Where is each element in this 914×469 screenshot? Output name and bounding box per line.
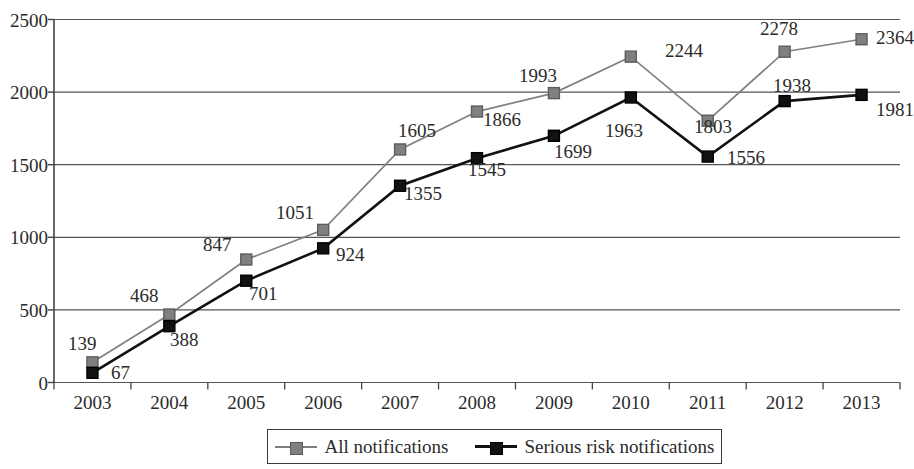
data-label-serious-risk-notifications: 1556 [727,148,765,167]
data-label-all-notifications: 139 [68,334,97,353]
data-label-serious-risk-notifications: 388 [170,330,199,349]
data-label-all-notifications: 2244 [665,41,703,60]
data-label-all-notifications: 1051 [276,203,314,222]
data-label-all-notifications: 1803 [694,117,732,136]
data-point-labels: 1394688471051160518661993224418032278236… [0,0,914,420]
data-label-serious-risk-notifications: 1963 [605,121,643,140]
data-label-serious-risk-notifications: 924 [336,245,365,264]
gray-square-marker-icon [275,440,317,454]
data-label-serious-risk-notifications: 1981 [876,100,914,119]
data-label-serious-risk-notifications: 701 [249,284,278,303]
legend-entry-serious-risk-notifications: Serious risk notifications [475,437,715,457]
data-label-serious-risk-notifications: 1699 [554,142,592,161]
data-label-serious-risk-notifications: 1355 [404,184,442,203]
legend-label-serious-risk-notifications: Serious risk notifications [525,437,715,457]
data-label-all-notifications: 468 [130,286,159,305]
data-label-all-notifications: 847 [203,235,232,254]
data-label-all-notifications: 1605 [398,121,436,140]
line-chart: 25002000150010005000 2003200420052006200… [0,0,914,469]
data-label-all-notifications: 2364 [876,28,914,47]
data-label-all-notifications: 1993 [519,66,557,85]
data-label-all-notifications: 2278 [760,19,798,38]
legend-entry-all-notifications: All notifications [275,437,449,457]
data-label-serious-risk-notifications: 1545 [468,160,506,179]
black-square-marker-icon [475,440,517,454]
legend-label-all-notifications: All notifications [325,437,449,457]
data-label-serious-risk-notifications: 67 [111,363,130,382]
data-label-serious-risk-notifications: 1938 [773,76,811,95]
chart-legend: All notifications Serious risk notificat… [267,429,722,464]
data-label-all-notifications: 1866 [483,110,521,129]
